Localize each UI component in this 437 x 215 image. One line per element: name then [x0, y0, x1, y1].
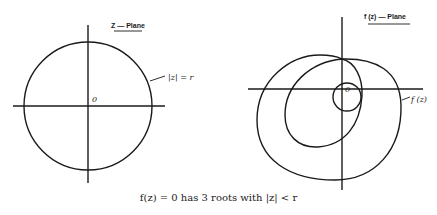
- fz-curve-pointer-arrow: [402, 97, 410, 100]
- figure-caption: f(z) = 0 has 3 roots with |z| < r: [0, 192, 437, 203]
- z-origin-label: 0: [92, 95, 97, 104]
- fz-origin-label: 0: [345, 85, 350, 94]
- fz-outer-loop: [257, 55, 401, 180]
- z-circle-pointer-arrow: [150, 76, 165, 81]
- fz-plane-figure: [248, 17, 423, 190]
- z-plane-figure: [13, 25, 165, 183]
- z-circle-label: |z| = r: [168, 73, 194, 82]
- fz-curve-label: f (z): [410, 95, 427, 104]
- fz-plane-title: f (z) — Plane: [364, 13, 406, 21]
- contour-diagram: Z — Plane 0 |z| = r f (z) — Plane 0 f (z…: [0, 0, 437, 215]
- z-plane-title: Z — Plane: [111, 22, 145, 29]
- fz-middle-loop: [285, 59, 362, 147]
